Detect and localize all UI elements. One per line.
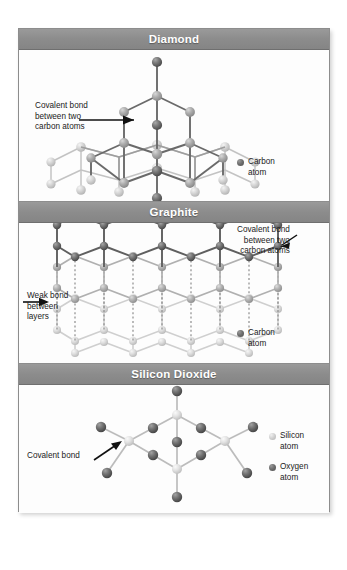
weak-bond-label-graphite: Weak bond between layers (27, 291, 68, 323)
legend-oxygen: Oxygen atom (269, 462, 308, 483)
weak-bond-line-3: layers (27, 312, 68, 323)
legend-silicon-text: Silicon atom (280, 431, 304, 452)
panel-title-diamond: Diamond (149, 33, 200, 45)
carbon-atom-swatch-icon (237, 159, 244, 166)
legend-carbon-line-2: atom (248, 339, 266, 348)
figure-giant-covalent-structures: Diamond (18, 28, 330, 512)
covalent-bond-line-3: carbon atoms (237, 246, 290, 257)
covalent-bond-line-2: between two (35, 112, 88, 123)
legend-carbon-diamond: Carbon atom (248, 157, 275, 178)
legend-carbon-line-1: Carbon (248, 157, 275, 166)
legend-carbon-line-2: atom (248, 168, 266, 177)
oxygen-atom-swatch-icon (269, 464, 276, 471)
covalent-bond-line-1: Covalent bond (237, 225, 290, 236)
legend-silicon: Silicon atom (269, 431, 304, 452)
panel-body-diamond: Covalent bond between two carbon atoms C… (19, 50, 329, 201)
weak-bond-line-2: between (27, 302, 68, 313)
panel-title-silicon-dioxide: Silicon Dioxide (131, 368, 216, 380)
covalent-bond-line-3: carbon atoms (35, 122, 88, 133)
legend-diamond: Carbon atom (237, 157, 275, 178)
panel-body-graphite: Covalent bond between two carbon atoms W… (19, 223, 329, 363)
covalent-bond-simple-line: Covalent bond (27, 451, 80, 462)
covalent-bond-label-diamond: Covalent bond between two carbon atoms (35, 101, 88, 133)
panel-header-graphite: Graphite (19, 202, 329, 223)
covalent-bond-line-2: between two (237, 236, 290, 247)
covalent-bond-label-graphite: Covalent bond between two carbon atoms (237, 225, 290, 257)
legend-graphite: Carbon atom (237, 328, 275, 349)
covalent-bond-label-silica: Covalent bond (27, 451, 80, 462)
legend-silicon-line-2: atom (280, 442, 298, 451)
panel-silicon-dioxide: Silicon Dioxide (19, 364, 329, 513)
panel-header-diamond: Diamond (19, 29, 329, 50)
panel-header-silicon-dioxide: Silicon Dioxide (19, 364, 329, 385)
panel-diamond: Diamond (19, 29, 329, 201)
graphite-layer-middle-bonds (57, 256, 278, 299)
silicon-atom-swatch-icon (269, 433, 276, 440)
carbon-atom-swatch-icon (237, 330, 244, 337)
panel-title-graphite: Graphite (150, 206, 199, 218)
legend-oxygen-line-2: atom (280, 473, 298, 482)
covalent-bond-line-1: Covalent bond (35, 101, 88, 112)
weak-bond-line-1: Weak bond (27, 291, 68, 302)
legend-carbon-graphite: Carbon atom (248, 328, 275, 349)
panel-body-silicon-dioxide: Covalent bond Silicon atom Oxygen atom (19, 385, 329, 513)
legend-carbon-line-1: Carbon (248, 328, 275, 337)
panel-graphite: Graphite (19, 202, 329, 363)
legend-oxygen-line-1: Oxygen (280, 462, 308, 471)
legend-oxygen-text: Oxygen atom (280, 462, 308, 483)
legend-silicon-line-1: Silicon (280, 431, 304, 440)
diamond-bonds-mid (81, 145, 225, 180)
